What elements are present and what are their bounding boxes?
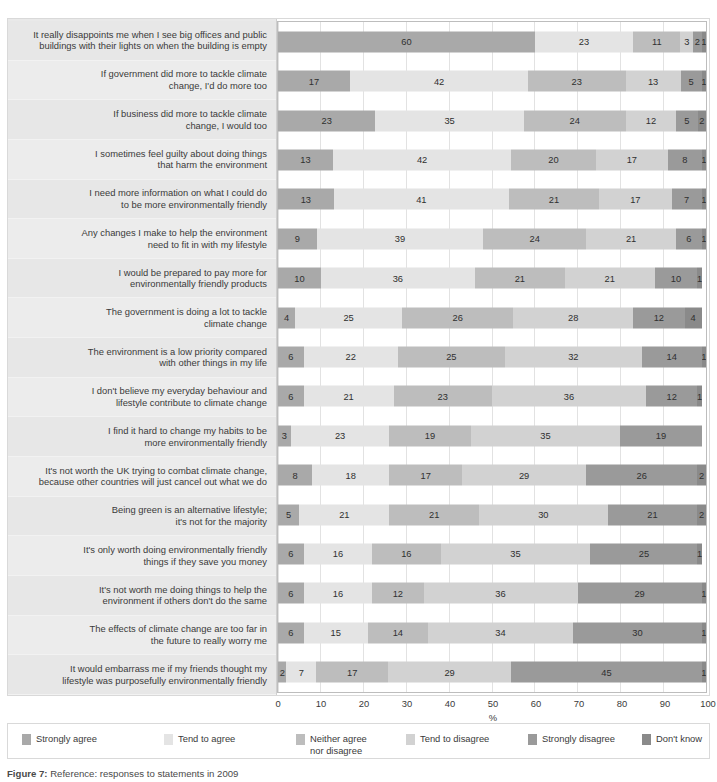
bar-segment-value: 9 [295, 234, 300, 244]
legend-swatch-icon [296, 734, 305, 745]
bar-segment: 24 [483, 228, 586, 249]
bar-segment: 30 [573, 622, 701, 643]
category-label-line: change, I would too [20, 120, 267, 132]
bar-segment-value: 16 [401, 549, 411, 559]
bar-segment-value: 16 [333, 588, 343, 598]
category-label: It's not worth the UK trying to combat c… [8, 457, 276, 497]
legend-swatch-icon [406, 734, 415, 745]
bar-row: 6161635251 [278, 534, 706, 573]
category-label-line: It would embarrass me if my friends thou… [20, 663, 267, 675]
x-axis-tick-label: 30 [402, 698, 412, 709]
bar-segment: 3 [278, 425, 291, 446]
bar-segment-value: 21 [647, 510, 657, 520]
legend-swatch-icon [642, 734, 651, 745]
bar-segment: 14 [368, 622, 428, 643]
x-axis-tick-label: 90 [660, 698, 670, 709]
category-label-list: It really disappoints me when I see big … [8, 21, 276, 695]
bar-segment-value: 5 [689, 76, 694, 86]
bar-segment-value: 1 [702, 194, 706, 204]
legend-item[interactable]: Tend to agree [164, 733, 235, 745]
stacked-bar: 1342201781 [278, 149, 706, 170]
bar-segment: 22 [304, 346, 398, 367]
legend-item[interactable]: Tend to disagree [406, 733, 489, 745]
legend-label-line: Strongly disagree [542, 733, 615, 745]
x-axis-tick-label: 40 [445, 698, 455, 709]
bar-segment: 2 [697, 504, 706, 525]
x-axis-tick-label: 60 [531, 698, 541, 709]
bar-row: 8181729262 [278, 455, 706, 494]
stacked-bar: 1341211771 [278, 189, 706, 210]
bar-segment-value: 23 [438, 391, 448, 401]
bar-row: 1342201781 [278, 140, 706, 179]
bar-segment: 6 [676, 228, 702, 249]
category-label: It really disappoints me when I see big … [8, 21, 276, 61]
legend-label-line: nor disagree [310, 745, 367, 757]
bar-segment: 17 [316, 662, 388, 683]
bar-segment: 30 [479, 504, 607, 525]
bar-segment-value: 17 [420, 470, 430, 480]
category-label-line: that harm the environment [20, 159, 267, 171]
bar-segment-value: 34 [495, 628, 505, 638]
bar-segment: 1 [702, 228, 706, 249]
bar-segment-value: 11 [652, 37, 662, 47]
bar-segment: 32 [505, 346, 642, 367]
category-label-column: It really disappoints me when I see big … [8, 19, 277, 695]
bar-segment: 2 [697, 465, 706, 486]
bar-row: 6151434301 [278, 613, 706, 652]
legend-item[interactable]: Strongly disagree [528, 733, 615, 745]
bar-segment-value: 6 [288, 588, 293, 598]
bar-segment: 7 [286, 662, 316, 683]
category-label: I need more information on what I could … [8, 180, 276, 220]
stacked-bar: 4252628124 [278, 307, 706, 328]
bar-segment: 42 [350, 71, 528, 92]
legend-item[interactable]: Neither agreenor disagree [296, 733, 367, 756]
bar-segment: 1 [697, 543, 701, 564]
bar-segment: 36 [321, 268, 475, 289]
category-label-line: I don't believe my everyday behaviour an… [20, 385, 267, 397]
chart-legend: Strongly agreeTend to agreeNeither agree… [7, 723, 710, 759]
category-label-line: It really disappoints me when I see big … [20, 29, 267, 41]
legend-item[interactable]: Strongly agree [22, 733, 97, 745]
bar-segment-value: 60 [401, 37, 411, 47]
bar-segment-value: 21 [549, 194, 559, 204]
category-label: It's not worth me doing things to help t… [8, 576, 276, 616]
stacked-bar-chart: It really disappoints me when I see big … [7, 18, 710, 696]
bar-segment-value: 17 [347, 667, 357, 677]
bar-segment: 12 [372, 583, 423, 604]
bar-segment: 8 [278, 465, 312, 486]
stacked-bar: 1742231351 [278, 71, 706, 92]
bar-segment-value: 12 [654, 313, 664, 323]
bar-segment: 21 [565, 268, 655, 289]
legend-item[interactable]: Don't know [642, 733, 702, 745]
bar-segment: 4 [685, 307, 702, 328]
bar-segment-value: 25 [639, 549, 649, 559]
bar-segment-value: 13 [301, 194, 311, 204]
stacked-bar: 6222532141 [278, 346, 706, 367]
bar-segment: 13 [278, 149, 333, 170]
bar-segment-value: 21 [626, 234, 636, 244]
x-axis-tick-label: 0 [275, 698, 280, 709]
category-label: The government is doing a lot to tacklec… [8, 298, 276, 338]
stacked-bar: 602311321 [278, 31, 706, 52]
x-axis-unit-label: % [489, 712, 497, 723]
bar-segment-value: 10 [671, 273, 681, 283]
bar-segment-value: 41 [416, 194, 426, 204]
bar-segment-value: 12 [393, 588, 403, 598]
bar-segment: 29 [578, 583, 702, 604]
category-label-line: I need more information on what I could … [20, 187, 267, 199]
bar-segment: 2 [278, 662, 286, 683]
bar-segment: 6 [278, 543, 304, 564]
bar-row-list: 6023113211742231351233524125213422017811… [278, 22, 706, 692]
bar-segment-value: 23 [579, 37, 589, 47]
bar-segment: 21 [608, 504, 698, 525]
bar-segment: 11 [633, 31, 680, 52]
bar-row: 6212336121 [278, 377, 706, 416]
bar-segment: 10 [655, 268, 698, 289]
category-label: The environment is a low priority compar… [8, 338, 276, 378]
caption-text: Reference: responses to statements in 20… [50, 768, 238, 779]
bar-segment: 17 [278, 71, 350, 92]
bar-segment: 12 [633, 307, 684, 328]
legend-label-line: Neither agree [310, 733, 367, 745]
category-label-line: to be more environmentally friendly [20, 199, 267, 211]
bar-segment: 1 [702, 662, 706, 683]
